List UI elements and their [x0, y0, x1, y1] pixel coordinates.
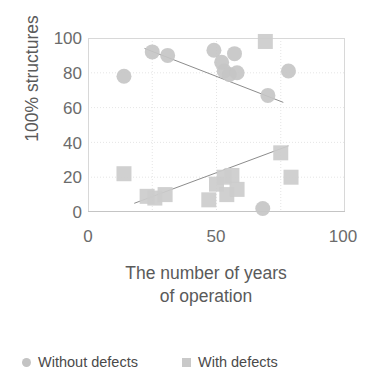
data-markers [116, 34, 298, 216]
x-axis-title-line2: of operation [56, 285, 356, 308]
plot-area [88, 38, 345, 212]
data-point-circle [116, 69, 131, 84]
data-point-circle [281, 64, 296, 79]
x-tick-label: 0 [58, 228, 118, 245]
x-axis-title-line1: The number of years [56, 262, 356, 285]
x-axis-title: The number of years of operation [56, 262, 356, 308]
legend-item-without-defects: Without defects [22, 355, 138, 370]
data-point-circle [145, 44, 160, 59]
plot-canvas [88, 38, 345, 212]
x-tick-label: 50 [186, 228, 246, 245]
data-point-square [158, 187, 173, 202]
data-point-circle [160, 48, 175, 63]
chart-legend: Without defects With defects [22, 355, 352, 377]
data-point-square [273, 145, 288, 160]
circle-marker-icon [22, 358, 31, 367]
data-point-circle [230, 65, 245, 80]
data-point-square [116, 166, 131, 181]
scatter-chart: 100% structures 100 80 60 40 20 0 0 50 1… [0, 0, 367, 383]
legend-label: Without defects [38, 355, 138, 370]
data-point-circle [255, 201, 270, 216]
legend-item-with-defects: With defects [182, 355, 278, 370]
data-point-circle [260, 88, 275, 103]
legend-label: With defects [198, 355, 278, 370]
square-marker-icon [182, 358, 191, 367]
data-point-square [201, 192, 216, 207]
data-point-square [224, 168, 239, 183]
data-point-circle [227, 46, 242, 61]
data-point-square [258, 34, 273, 49]
data-point-square [230, 182, 245, 197]
x-tick-label: 100 [313, 228, 367, 245]
data-point-square [284, 170, 299, 185]
